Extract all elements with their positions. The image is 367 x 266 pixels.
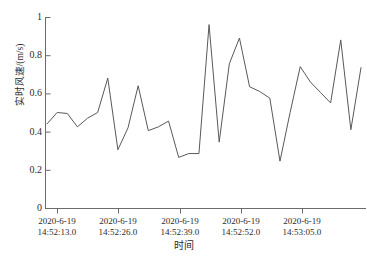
wind-speed-chart: 实时风速/(m/s) 1 0.8 0.6 0.4 0.2 0 <box>0 0 367 266</box>
x-axis-tick-labels: 2020-6-19 14:52:13.0 2020-6-19 14:52:26.… <box>0 0 367 266</box>
x-tick-label: 2020-6-19 14:53:05.0 <box>260 216 344 238</box>
x-tick-time: 14:53:05.0 <box>260 227 344 238</box>
x-tick-date: 2020-6-19 <box>260 216 344 227</box>
x-axis-title: 时间 <box>0 240 367 252</box>
